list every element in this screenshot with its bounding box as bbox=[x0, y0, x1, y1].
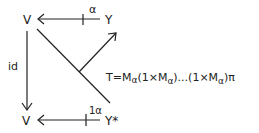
node-top-left: V bbox=[23, 13, 32, 27]
bottom-arrow-label: 1α bbox=[89, 105, 102, 116]
diagonal-line bbox=[37, 29, 110, 103]
node-bottom-left: V bbox=[22, 114, 31, 128]
node-top-right: Y bbox=[104, 13, 113, 27]
node-bottom-right: Y* bbox=[104, 114, 118, 128]
id-arrow-label: id bbox=[8, 60, 18, 73]
formula: T=Mα(1×Mα)...(1×Mα)π bbox=[105, 71, 235, 86]
up-arrow-line bbox=[79, 33, 116, 72]
top-arrow-label: α bbox=[89, 3, 96, 16]
commutative-diagram: V Y V Y* α 1α id T=Mα(1×Mα)...(1×Mα)π bbox=[0, 0, 259, 133]
